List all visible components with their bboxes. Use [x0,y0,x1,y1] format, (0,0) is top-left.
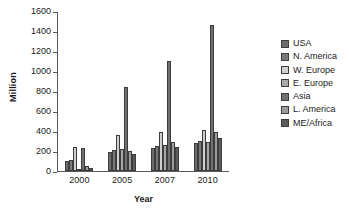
legend-label: N. America [293,52,337,61]
y-tick-mark [53,72,57,73]
legend-item: W. Europe [281,65,337,76]
y-tick-mark [53,152,57,153]
legend-swatch [281,119,289,127]
bar-groups [58,12,229,171]
legend-swatch [281,40,289,48]
y-tick-label: 600 [17,106,51,116]
y-tick-mark [53,12,57,13]
legend-label: Asia [293,92,311,101]
x-tick-label: 2010 [186,175,229,185]
bar [175,147,179,171]
legend: USAN. AmericaW. EuropeE. EuropeAsiaL. Am… [281,38,337,129]
y-tick-label: 800 [17,86,51,96]
legend-item: L. America [281,104,337,115]
y-tick-label: 400 [17,126,51,136]
x-tick-label: 2007 [144,175,187,185]
y-tick-mark [53,32,57,33]
x-tick-label: 2000 [58,175,101,185]
bar [73,147,77,172]
x-axis-title: Year [58,194,229,204]
legend-item: USA [281,38,337,49]
y-tick-mark [53,172,57,173]
legend-swatch [281,53,289,61]
y-tick-label: 1000 [17,66,51,76]
legend-swatch [281,93,289,101]
bar [89,168,93,172]
legend-item: N. America [281,51,337,62]
legend-label: USA [293,39,312,48]
x-tick-label: 2005 [101,175,144,185]
legend-label: L. America [293,105,336,114]
legend-swatch [281,106,289,114]
bar-group [186,12,229,171]
legend-swatch [281,66,289,74]
bar [218,138,222,172]
x-axis-line [57,171,229,172]
y-tick-label: 1600 [17,6,51,16]
y-tick-mark [53,52,57,53]
x-axis-tick-labels: 2000200520072010 [58,175,229,185]
bar-group [58,12,101,171]
legend-label: W. Europe [293,66,335,75]
legend-item: Asia [281,91,337,102]
bar-group [144,12,187,171]
legend-item: E. Europe [281,78,337,89]
legend-swatch [281,79,289,87]
y-tick-label: 0 [17,166,51,176]
y-tick-mark [53,132,57,133]
y-tick-label: 200 [17,146,51,156]
y-tick-label: 1200 [17,46,51,56]
bar-group [101,12,144,171]
y-tick-mark [53,112,57,113]
chart-screenshot: Million 02004006008001000120014001600 20… [0,0,349,219]
legend-label: E. Europe [293,79,333,88]
legend-item: ME/Africa [281,118,337,129]
y-tick-label: 1400 [17,26,51,36]
bar [132,154,136,171]
y-tick-mark [53,92,57,93]
legend-label: ME/Africa [293,119,332,128]
plot-area: 02004006008001000120014001600 [57,12,229,172]
